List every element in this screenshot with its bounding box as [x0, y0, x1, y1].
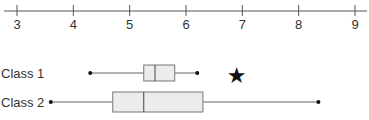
outlier-star-icon: ★: [227, 63, 247, 88]
whisker-max-dot: [316, 100, 320, 104]
iqr-box: [113, 92, 203, 112]
iqr-box: [144, 65, 175, 81]
x-tick-label: 5: [126, 17, 133, 32]
whisker-min-dot: [88, 71, 92, 75]
x-tick-label: 4: [70, 17, 77, 32]
box-plot-chart: 3456789Class 1★Class 2: [0, 0, 369, 120]
whisker-max-dot: [195, 71, 199, 75]
row-label-class-2: Class 2: [1, 95, 44, 110]
row-label-class-1: Class 1: [1, 66, 44, 81]
x-tick-label: 8: [295, 17, 302, 32]
x-tick-label: 7: [239, 17, 246, 32]
x-tick-label: 9: [351, 17, 358, 32]
whisker-min-dot: [49, 100, 53, 104]
x-tick-label: 6: [182, 17, 189, 32]
x-tick-label: 3: [13, 17, 20, 32]
